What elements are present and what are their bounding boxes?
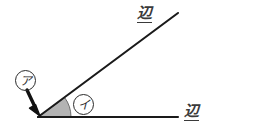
side-line-diagonal xyxy=(38,13,178,117)
marker-angle-label: イ xyxy=(78,98,90,110)
angle-diagram-figure: 辺 辺 ア イ xyxy=(0,0,266,130)
side-label-bottom-underline xyxy=(184,120,199,121)
side-label-top: 辺 xyxy=(137,6,152,23)
marker-vertex-label: ア xyxy=(20,74,32,86)
marker-vertex-circled-a: ア xyxy=(15,70,36,91)
side-label-bottom: 辺 xyxy=(184,104,199,121)
diagram-canvas xyxy=(0,0,266,130)
marker-angle-circled-i: イ xyxy=(73,94,94,115)
side-label-top-underline xyxy=(137,22,152,23)
side-label-bottom-text: 辺 xyxy=(184,102,199,120)
side-label-top-text: 辺 xyxy=(137,4,152,22)
vertex-pointer-arrow xyxy=(27,90,40,116)
